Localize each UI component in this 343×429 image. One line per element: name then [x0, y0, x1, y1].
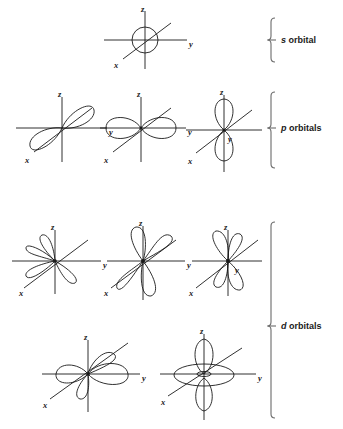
nucleus-dot: [139, 126, 142, 129]
orbital-px: z y x: [16, 89, 113, 165]
nucleus-dot: [53, 259, 57, 263]
x-axis-label: x: [18, 288, 24, 298]
group-label-p: p orbitals: [280, 123, 322, 133]
dyz-lobe-2: [143, 235, 172, 261]
group-bracket-s: s orbital: [268, 18, 317, 62]
orbital-dx2y2: z y x: [42, 332, 146, 412]
px-lobe-negative: [30, 128, 62, 150]
orbital-shapes-figure: z y x s orbital z y x z y x: [0, 0, 343, 429]
y-axis-label: y: [257, 373, 262, 383]
orbital-dxz: z y x: [188, 222, 262, 298]
y-axis-label: y: [187, 127, 192, 137]
z-axis-label: z: [140, 4, 145, 14]
x-axis-label: x: [188, 288, 194, 298]
z-axis-label: z: [136, 89, 141, 99]
y-axis-label: y: [234, 265, 239, 275]
z-axis-label: z: [50, 222, 55, 232]
x-axis-label: x: [24, 155, 30, 165]
px-lobe-positive: [62, 106, 94, 128]
group-label-s: s orbital: [281, 35, 316, 45]
dxz-lobe-1: [213, 231, 229, 261]
orbital-diagram-canvas: z y x s orbital z y x z y x: [0, 0, 343, 429]
dx2y2-lobe-minus-x: [77, 374, 89, 399]
z-axis-label: z: [57, 89, 62, 99]
y-axis-label: y: [227, 134, 232, 144]
x-axis-label: x: [103, 288, 109, 298]
dyz-lobe-4: [117, 261, 143, 289]
z-axis-label: z: [219, 87, 224, 97]
orbital-pz: z y x: [186, 87, 262, 172]
x-axis-line: [34, 108, 92, 152]
orbital-dyz: z y x: [103, 218, 191, 300]
nucleus-dot: [86, 372, 90, 376]
orbital-dz2: z y x: [160, 326, 262, 420]
dxz-lobe-2: [228, 234, 242, 261]
y-axis-label: y: [102, 260, 107, 270]
z-axis-label: z: [223, 222, 228, 232]
x-axis-line: [168, 348, 242, 396]
x-axis-label: x: [113, 60, 119, 70]
z-axis-label: z: [138, 218, 143, 228]
dxy-lobe-4: [55, 261, 76, 283]
nucleus-dot: [226, 259, 230, 263]
orbital-dxy: z y x: [12, 222, 107, 298]
nucleus-dot: [141, 259, 145, 263]
orbital-s: z y x: [104, 4, 193, 70]
x-axis-label: x: [103, 155, 109, 165]
z-axis-label: z: [83, 332, 88, 342]
group-label-d: d orbitals: [281, 321, 322, 331]
y-axis-label: y: [108, 127, 113, 137]
group-bracket-p: p orbitals: [268, 92, 322, 168]
y-axis-label: y: [141, 373, 146, 383]
dxy-lobe-2: [26, 246, 55, 261]
x-axis-line: [196, 240, 258, 288]
z-axis-label: z: [199, 326, 204, 336]
orbital-py: z y x: [100, 89, 192, 165]
x-axis-label: x: [187, 156, 193, 166]
x-axis-label: x: [42, 400, 48, 410]
y-axis-label: y: [186, 260, 191, 270]
y-axis-label: y: [188, 39, 193, 49]
x-axis-line: [123, 23, 171, 59]
nucleus-dot: [222, 128, 225, 131]
group-bracket-d: d orbitals: [268, 222, 322, 418]
x-axis-label: x: [160, 397, 166, 407]
